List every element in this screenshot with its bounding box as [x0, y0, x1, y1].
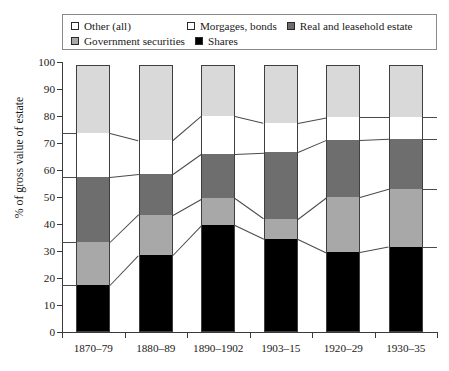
bar-1870–79 — [76, 62, 110, 332]
legend-swatch-gray-icon — [287, 22, 295, 30]
connector-line — [360, 247, 389, 253]
connector-line — [297, 197, 326, 219]
legend-swatch-open-icon — [71, 22, 79, 30]
bar-segment-other-all — [76, 65, 110, 133]
x-axis-tick-mark — [250, 333, 251, 338]
chart-legend: Other (all) Morgages, bonds Real and lea… — [62, 14, 437, 50]
connector-line — [360, 139, 389, 141]
bar-segment-morgages-bonds — [389, 117, 423, 139]
bar-1930–35 — [389, 62, 423, 332]
connector-line — [423, 139, 437, 140]
bar-segment-other-all — [201, 65, 235, 116]
connector-line — [110, 255, 139, 286]
bar-1880–89 — [139, 62, 173, 332]
bar-segment-real-and-leasehold-estate — [326, 140, 360, 197]
legend-item-other-all: Other (all) — [71, 20, 131, 32]
bar-segment-real-and-leasehold-estate — [139, 174, 173, 215]
bar-1890–1902 — [201, 62, 235, 332]
bar-segment-real-and-leasehold-estate — [389, 139, 423, 189]
bar-segment-shares — [201, 225, 235, 332]
connector-line — [235, 116, 264, 124]
x-axis-tick-label: 1930–35 — [361, 342, 449, 354]
bar-segment-other-all — [264, 65, 298, 123]
y-axis-tick-label: 30 — [0, 246, 55, 256]
legend-row: Other (all) Morgages, bonds Real and lea… — [71, 18, 430, 33]
x-axis-tick-mark — [125, 333, 126, 338]
x-axis-tick-mark — [437, 333, 438, 338]
bar-segment-shares — [76, 285, 110, 332]
bar-segment-shares — [389, 247, 423, 332]
connector-line — [360, 117, 389, 118]
bar-segment-shares — [326, 252, 360, 332]
bar-segment-other-all — [389, 65, 423, 118]
legend-label: Morgages, bonds — [200, 20, 277, 32]
bar-segment-morgages-bonds — [326, 117, 360, 140]
connector-line — [235, 225, 264, 239]
connector-line — [110, 133, 139, 141]
bar-1903–15 — [264, 62, 298, 332]
bar-segment-government-securities — [201, 198, 235, 225]
legend-label: Other (all) — [84, 20, 131, 32]
connector-line — [298, 140, 327, 153]
connector-line — [423, 247, 437, 248]
y-axis-tick-label: 60 — [0, 165, 55, 175]
legend-label: Real and leasehold estate — [300, 20, 413, 32]
connector-line — [110, 174, 139, 178]
legend-label: Government securities — [84, 35, 185, 47]
bar-segment-real-and-leasehold-estate — [264, 152, 298, 218]
legend-swatch-lightgray-icon — [71, 37, 79, 45]
legend-item-real-and-leasehold-estate: Real and leasehold estate — [287, 20, 413, 32]
bar-segment-shares — [264, 239, 298, 332]
legend-item-government-securities: Government securities — [71, 35, 185, 47]
legend-item-shares: Shares — [195, 35, 238, 47]
y-axis-tick-label: 100 — [0, 57, 55, 67]
y-axis-tick-label: 0 — [0, 327, 55, 337]
connector-line — [360, 189, 389, 198]
y-axis-tick-label: 20 — [0, 273, 55, 283]
bar-segment-morgages-bonds — [264, 123, 298, 153]
connector-line — [235, 198, 264, 219]
y-axis-title: % of gross value of estate — [12, 43, 27, 273]
x-axis-tick-mark — [312, 333, 313, 338]
stacked-bar-chart: Other (all) Morgages, bonds Real and lea… — [0, 0, 449, 371]
bar-segment-other-all — [139, 65, 173, 141]
y-axis-tick-label: 80 — [0, 111, 55, 121]
connector-line — [298, 117, 327, 123]
y-axis-tick-label: 10 — [0, 300, 55, 310]
connector-line — [173, 198, 202, 215]
y-axis-tick-label: 50 — [0, 192, 55, 202]
connector-line — [423, 117, 437, 118]
bar-segment-shares — [139, 255, 173, 332]
x-axis-tick-mark — [187, 333, 188, 338]
legend-label: Shares — [208, 35, 238, 47]
bar-segment-morgages-bonds — [139, 140, 173, 174]
bar-segment-real-and-leasehold-estate — [76, 177, 110, 242]
legend-row: Government securities Shares — [71, 33, 430, 48]
legend-swatch-filled-icon — [195, 37, 203, 45]
connector-line — [172, 154, 201, 175]
x-axis-tick-mark — [62, 333, 63, 338]
bar-segment-government-securities — [76, 242, 110, 285]
connector-line — [62, 285, 76, 286]
connector-line — [172, 116, 201, 141]
y-axis-tick-label: 70 — [0, 138, 55, 148]
bar-segment-government-securities — [389, 189, 423, 247]
bar-segment-morgages-bonds — [201, 116, 235, 154]
connector-line — [423, 189, 437, 190]
bar-segment-real-and-leasehold-estate — [201, 154, 235, 199]
bar-1920–29 — [326, 62, 360, 332]
y-axis-tick-label: 90 — [0, 84, 55, 94]
bar-segment-government-securities — [326, 197, 360, 252]
connector-line — [62, 177, 76, 178]
connector-line — [62, 133, 76, 134]
legend-swatch-open-icon — [187, 22, 195, 30]
connector-line — [298, 239, 327, 253]
y-axis-tick-label: 40 — [0, 219, 55, 229]
bar-segment-government-securities — [264, 219, 298, 239]
legend-item-morgages-bonds: Morgages, bonds — [187, 20, 277, 32]
bar-segment-other-all — [326, 65, 360, 118]
connector-line — [62, 242, 76, 243]
bar-segment-morgages-bonds — [76, 133, 110, 177]
x-axis-tick-mark — [375, 333, 376, 338]
bar-segment-government-securities — [139, 215, 173, 256]
